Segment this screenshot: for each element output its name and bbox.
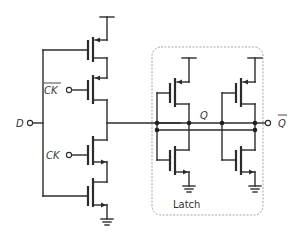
clock-bar-label: CK <box>44 85 59 96</box>
pmos-clock-transistor <box>66 75 107 104</box>
latch-box <box>152 47 263 215</box>
clock-bar-input-terminal[interactable] <box>66 87 71 92</box>
d-input-terminal[interactable] <box>27 120 32 125</box>
nmos-clock-transistor <box>66 136 107 165</box>
circuit-diagram: Latch <box>0 0 300 240</box>
d-label: D <box>16 118 24 129</box>
ground-icon <box>249 186 261 192</box>
pmos-data-transistor <box>43 37 107 62</box>
latch-inverter-1 <box>157 58 196 192</box>
q-bar-output-terminal[interactable] <box>265 120 270 125</box>
clock-input-terminal[interactable] <box>66 152 71 157</box>
q-bar-label: Q <box>278 118 286 129</box>
ground-icon <box>101 219 113 225</box>
ground-icon <box>183 186 195 192</box>
nmos-data-transistor <box>43 178 107 208</box>
q-label: Q <box>200 110 208 121</box>
latch-label: Latch <box>173 199 200 210</box>
clock-label: CK <box>46 150 61 161</box>
